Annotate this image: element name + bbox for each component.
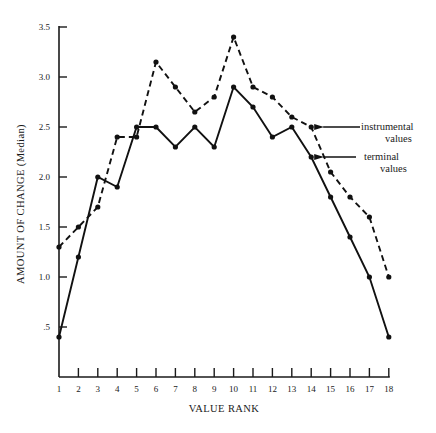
- data-series: [56, 34, 391, 339]
- data-point: [386, 274, 391, 279]
- series-line: [59, 87, 389, 337]
- data-point: [386, 334, 391, 339]
- y-tick-label: 1.0: [39, 272, 51, 282]
- x-tick-label: 15: [326, 384, 336, 394]
- line-chart: AMOUNT OF CHANGE (Median) VALUE RANK .51…: [0, 0, 436, 433]
- data-point: [231, 84, 236, 89]
- x-tick-label: 14: [307, 384, 317, 394]
- data-point: [76, 224, 81, 229]
- data-point: [95, 174, 100, 179]
- data-point: [250, 104, 255, 109]
- data-point: [76, 254, 81, 259]
- data-point: [309, 154, 314, 159]
- data-point: [289, 114, 294, 119]
- y-tick-label: 2.0: [39, 172, 51, 182]
- data-point: [153, 59, 158, 64]
- data-point: [56, 334, 61, 339]
- y-tick-label: 1.5: [39, 222, 51, 232]
- annotation-instrumental-values: instrumentalvalues: [323, 121, 413, 144]
- data-point: [347, 194, 352, 199]
- y-axis-title: AMOUNT OF CHANGE (Median): [15, 124, 27, 284]
- data-point: [328, 194, 333, 199]
- x-tick-label: 8: [193, 384, 198, 394]
- data-point: [328, 169, 333, 174]
- data-point: [212, 94, 217, 99]
- data-point: [250, 84, 255, 89]
- data-point: [192, 109, 197, 114]
- data-point: [153, 124, 158, 129]
- data-point: [95, 204, 100, 209]
- data-point: [347, 234, 352, 239]
- data-point: [115, 134, 120, 139]
- y-tick-label: 3.5: [39, 22, 51, 32]
- data-point: [289, 124, 294, 129]
- x-tick-label: 10: [229, 384, 239, 394]
- x-tick-label: 17: [365, 384, 375, 394]
- data-point: [270, 134, 275, 139]
- x-tick-label: 6: [154, 384, 159, 394]
- y-tick-label: .5: [43, 322, 50, 332]
- x-tick-label: 3: [96, 384, 101, 394]
- data-point: [173, 144, 178, 149]
- series-annotations: instrumentalvaluesterminalvalues: [323, 121, 413, 174]
- data-point: [309, 124, 314, 129]
- x-tick-label: 13: [287, 384, 297, 394]
- data-point: [56, 244, 61, 249]
- x-tick-label: 16: [346, 384, 356, 394]
- data-point: [212, 144, 217, 149]
- y-ticks: .51.01.52.02.53.03.5: [39, 22, 67, 332]
- x-tick-label: 4: [115, 384, 120, 394]
- x-tick-label: 12: [268, 384, 277, 394]
- axes: [59, 26, 390, 377]
- x-tick-label: 1: [57, 384, 62, 394]
- x-tick-label: 9: [212, 384, 217, 394]
- annotation-label: terminal: [364, 151, 399, 162]
- annotation-label-line2: values: [385, 133, 412, 144]
- data-point: [367, 274, 372, 279]
- data-point: [115, 184, 120, 189]
- x-tick-label: 18: [384, 384, 394, 394]
- data-point: [173, 84, 178, 89]
- annotation-terminal-values: terminalvalues: [323, 151, 407, 174]
- series-terminal-values: [56, 84, 391, 339]
- annotation-label-line2: values: [380, 163, 407, 174]
- x-tick-label: 11: [249, 384, 258, 394]
- y-tick-label: 3.0: [39, 72, 51, 82]
- data-point: [134, 124, 139, 129]
- x-tick-label: 2: [76, 384, 81, 394]
- x-ticks: 123456789101112131415161718: [57, 368, 394, 394]
- data-point: [367, 214, 372, 219]
- data-point: [192, 124, 197, 129]
- data-point: [270, 94, 275, 99]
- y-axis-label: AMOUNT OF CHANGE (Median): [15, 124, 27, 284]
- x-tick-label: 5: [134, 384, 139, 394]
- y-tick-label: 2.5: [39, 122, 51, 132]
- x-tick-label: 7: [173, 384, 178, 394]
- annotation-label: instrumental: [361, 121, 414, 132]
- data-point: [231, 34, 236, 39]
- x-axis-label: VALUE RANK: [189, 403, 260, 414]
